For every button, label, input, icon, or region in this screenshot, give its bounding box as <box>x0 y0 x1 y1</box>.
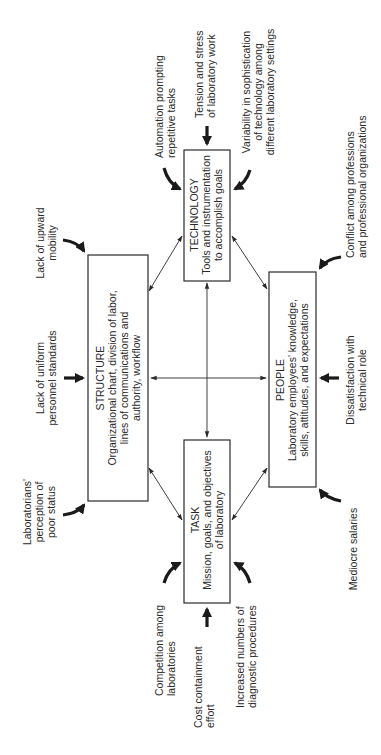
task-title: TASK <box>189 507 201 534</box>
dissatisfaction-label-1: Dissatisfaction with <box>344 335 356 424</box>
competition-label-1: Competition among <box>153 605 165 696</box>
structure-line-2: lines of communications and <box>118 312 130 445</box>
variability-label-3: different laboratory settings <box>264 29 276 155</box>
uniform-standards-label-1: Lack of uniform <box>34 342 46 414</box>
automation-label-1: Automation prompting <box>153 55 165 158</box>
conflict-arrow-icon <box>320 257 341 268</box>
diagnostic-arrow-icon <box>235 563 250 583</box>
conflict-label-2: and professional organizations <box>356 116 368 258</box>
task-line-1: Mission, goals, and objectives <box>201 450 213 590</box>
salaries-arrow-icon <box>320 490 341 501</box>
cost-containment-label-2: effort <box>204 704 216 728</box>
structure-title: STRUCTURE <box>94 346 106 411</box>
organizational-systems-diagram: TECHNOLOGY Tools and instrumentation to … <box>0 0 381 755</box>
cost-containment-label-1: Cost containment <box>192 646 204 728</box>
diagnostic-label-2: diagnostic procedures <box>246 605 258 708</box>
automation-label-2: repetitive tasks <box>165 88 177 158</box>
structure-line-3: authority, workflow <box>130 335 142 422</box>
tension-label-2: of laboratory work <box>205 34 217 118</box>
people-title: PEOPLE <box>274 359 286 401</box>
variability-label-1: Variability in sophistication <box>240 31 252 154</box>
variability-label-2: of technology among <box>252 43 264 141</box>
tension-label-1: Tension and stress <box>193 30 205 118</box>
competition-arrow-icon <box>164 563 180 583</box>
upward-mobility-arrow-icon <box>63 240 84 251</box>
upward-mobility-label-1: Lack of upward <box>34 207 46 278</box>
structure-line-1: Organizational chart, division of labor, <box>106 290 118 465</box>
task-box: TASK Mission, goals, and objectives of l… <box>184 440 230 603</box>
salaries-label: Mediocre salaries <box>347 508 359 590</box>
diagnostic-label-1: Increased numbers of <box>234 606 246 708</box>
connector-people-task <box>232 468 267 520</box>
task-line-2: of laboratory <box>213 490 225 549</box>
uniform-standards-label-2: personnel standards <box>46 330 58 425</box>
connector-structure-technology <box>149 236 182 291</box>
technology-line-1: Tools and instrumentation <box>200 155 212 275</box>
technology-title: TECHNOLOGY <box>188 178 200 252</box>
people-box: PEOPLE Laboratory employees' knowledge, … <box>269 272 316 487</box>
poor-status-label-2: perception of <box>33 482 45 543</box>
dissatisfaction-label-2: technical role <box>356 349 368 411</box>
variability-arrow-icon <box>235 170 250 189</box>
upward-mobility-label-2: mobility <box>46 224 58 260</box>
connector-structure-task <box>149 468 182 520</box>
poor-status-label-3: poor status <box>45 486 57 538</box>
technology-line-2: to accomplish goals <box>212 169 224 261</box>
poor-status-arrow-icon <box>63 505 84 515</box>
competition-label-2: laboratories <box>165 641 177 696</box>
automation-arrow-icon <box>164 168 180 189</box>
technology-box: TECHNOLOGY Tools and instrumentation to … <box>184 150 230 281</box>
connector-technology-people <box>232 236 267 289</box>
poor-status-label-1: Laboratorians' <box>21 479 33 545</box>
conflict-label-1: Conflict among professions <box>344 131 356 258</box>
people-line-1: Laboratory employees' knowledge, <box>286 299 298 461</box>
people-line-2: skills, attitudes, and expectations <box>298 303 310 457</box>
structure-box: STRUCTURE Organizational chart, division… <box>88 255 148 501</box>
